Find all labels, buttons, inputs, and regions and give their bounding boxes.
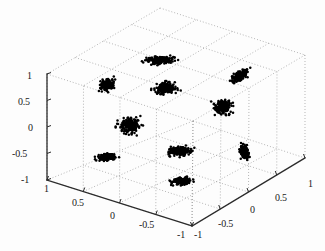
point-cluster	[210, 99, 235, 117]
data-point	[226, 105, 229, 108]
data-point	[129, 124, 132, 127]
data-point	[136, 119, 139, 122]
data-point	[126, 131, 129, 134]
data-point	[181, 181, 184, 184]
data-point	[136, 122, 139, 125]
grid-line-wall-right-v	[192, 121, 193, 226]
data-point	[160, 58, 163, 61]
data-point	[155, 56, 158, 59]
data-point	[156, 83, 159, 86]
data-point	[242, 76, 245, 79]
point-cluster	[98, 75, 117, 93]
data-point	[225, 114, 228, 117]
data-point	[246, 159, 249, 162]
x_axis_left-tick-label: 0.5	[72, 198, 84, 208]
data-point	[177, 181, 180, 184]
grid-line-wall-left-h	[104, 41, 250, 88]
data-point	[122, 117, 125, 120]
data-point	[103, 83, 106, 86]
grid-line-wall-right-v	[220, 105, 221, 210]
data-point	[236, 74, 239, 77]
data-point	[128, 118, 131, 121]
data-point	[133, 122, 136, 125]
data-point	[218, 101, 221, 104]
data-point	[105, 156, 108, 159]
data-point	[162, 57, 165, 60]
data-point	[129, 121, 132, 124]
data-point	[132, 129, 135, 132]
data-point	[107, 159, 110, 162]
z_axis-tick-label: -0.5	[12, 149, 27, 159]
data-point	[135, 129, 138, 132]
data-point	[94, 156, 97, 159]
data-point	[139, 115, 142, 118]
data-point	[113, 155, 116, 158]
data-point	[239, 70, 242, 73]
data-point	[232, 102, 235, 105]
data-point	[99, 84, 102, 87]
data-point	[175, 92, 178, 95]
data-point	[190, 148, 193, 151]
data-point	[243, 72, 246, 75]
data-point	[189, 151, 192, 154]
data-point	[138, 125, 141, 128]
data-point	[189, 179, 192, 182]
data-point-clusters	[94, 54, 252, 187]
data-point	[154, 62, 157, 65]
data-point	[106, 152, 109, 155]
z_axis-tick-label: 0.5	[18, 97, 30, 107]
data-point	[178, 156, 181, 159]
data-point	[163, 60, 166, 63]
x_axis_left-tick-label: 1	[44, 184, 49, 194]
figure-canvas: 10.50-0.5-110.50-0.5-1-1-0.500.51	[0, 0, 325, 251]
data-point	[164, 91, 167, 94]
data-point	[136, 134, 139, 137]
data-point	[214, 114, 217, 117]
data-point	[246, 76, 249, 79]
data-point	[159, 93, 162, 96]
data-point	[133, 132, 136, 135]
data-point	[168, 57, 171, 60]
data-point	[125, 119, 128, 122]
data-point	[241, 151, 244, 154]
data-point	[103, 156, 106, 159]
data-point	[185, 144, 188, 147]
data-point	[165, 80, 168, 83]
data-point	[164, 83, 167, 86]
data-point	[174, 150, 177, 153]
data-point	[101, 90, 104, 93]
grid-line-wall-left-h	[75, 58, 221, 105]
data-point	[229, 110, 232, 113]
data-point	[187, 147, 190, 150]
y_axis_right-tick-label: -0.5	[218, 219, 233, 229]
grid-line-wall-left-v	[156, 109, 157, 214]
data-point	[159, 87, 162, 90]
data-point	[118, 156, 121, 159]
y_axis_right-tick-label: 1	[308, 179, 313, 189]
data-point	[210, 100, 213, 103]
data-point	[234, 78, 237, 81]
z_axis-tick-label: -1	[21, 175, 29, 185]
data-point	[184, 178, 187, 181]
data-point	[113, 81, 116, 84]
data-point	[113, 75, 116, 78]
data-point	[220, 113, 223, 116]
data-point	[104, 89, 107, 92]
data-point	[110, 157, 113, 160]
data-point	[192, 180, 195, 183]
x-axis-tick	[156, 211, 158, 215]
data-point	[217, 108, 220, 111]
data-point	[174, 179, 177, 182]
data-point	[169, 84, 172, 87]
grid-line-wall-right-v	[249, 88, 250, 192]
data-point	[172, 88, 175, 91]
data-point	[100, 157, 103, 160]
data-point	[156, 64, 159, 67]
data-point	[154, 58, 157, 61]
data-point	[228, 113, 231, 116]
grid-line-wall-right-h	[84, 20, 197, 86]
data-point	[243, 146, 246, 149]
data-point	[167, 91, 170, 94]
data-point	[187, 153, 190, 156]
z_axis-tick-label: 1	[27, 71, 32, 81]
